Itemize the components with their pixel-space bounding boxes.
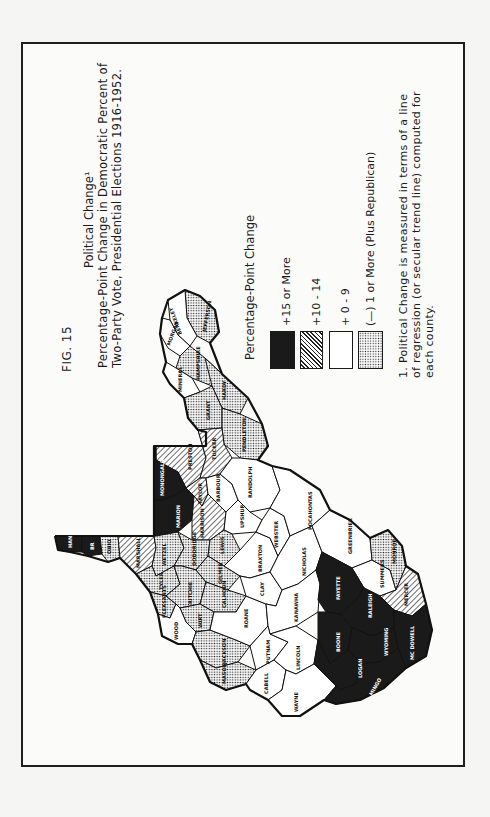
label-summers: SUMMERS — [379, 559, 385, 588]
label-mason: MASON — [221, 663, 227, 684]
label-wirt: WIRT — [197, 613, 203, 628]
label-kanawha: KANAWHA — [293, 593, 299, 622]
label-marion: MARION — [175, 505, 181, 528]
label-fayette: FAYETTE — [335, 576, 341, 600]
label-wetzel: WETZEL — [161, 543, 167, 566]
label-cabell: CABELL — [263, 672, 269, 694]
label-roane: ROANE — [243, 608, 249, 628]
label-monroe: MONROE — [391, 538, 397, 564]
legend-heading: Percentage-Point Change — [243, 215, 257, 360]
figure-subtitle-line-1: Percentage-Point Change in Democratic Pe… — [96, 63, 110, 368]
label-lincoln: LINCOLN — [295, 645, 301, 670]
label-pleasants: PLEASANTS — [161, 585, 167, 618]
label-webster: WEBSTER — [273, 521, 279, 548]
label-jackson: JACKSON — [221, 639, 227, 665]
label-doddridge: DODDRIDGE — [191, 531, 197, 566]
label-putnam: PUTNAM — [265, 640, 271, 664]
label-randolph: RANDOLPH — [247, 467, 253, 498]
label-hardy: HARDY — [221, 380, 227, 400]
figure-subtitle-line-2: Two-Party Vote, Presidential Elections 1… — [110, 69, 124, 368]
footnote-line-1: 1. Political Change is measured in terms… — [397, 94, 410, 378]
legend-label-0-9: + 0 - 9 — [339, 288, 352, 326]
label-ohio: OHIO — [106, 539, 112, 554]
page: HAN BR OHIO MARSHALL WETZEL TYLER PLEASA… — [0, 0, 490, 817]
legend-swatch-solid-black — [270, 331, 295, 369]
label-boone: BOONE — [335, 632, 341, 652]
footnote-line-3: each county. — [423, 305, 436, 378]
label-hampshire: HAMPSHIRE — [195, 346, 201, 380]
label-nicholas: NICHOLAS — [301, 547, 307, 576]
label-braxton: BRAXTON — [257, 545, 263, 572]
footnote-line-2: of regression (or secular trend line) co… — [410, 91, 423, 378]
label-marshall: MARSHALL — [135, 536, 141, 568]
label-grant: GRANT — [205, 400, 211, 420]
legend-swatch-hatch — [300, 331, 323, 369]
legend-swatch-blank — [329, 331, 353, 369]
label-gilmer: GILMER — [217, 562, 223, 584]
label-mcdowell: MC DOWELL — [409, 625, 415, 660]
legend-swatch-dotted — [358, 331, 383, 369]
figure-title: Political Change¹ — [82, 171, 96, 268]
label-preston: PRESTON — [187, 444, 193, 470]
label-hancock: HAN — [67, 536, 73, 548]
label-pendleton: PENDLETON — [241, 418, 247, 452]
label-wyoming: WYOMING — [383, 628, 389, 656]
label-pocahontas: POCAHONTAS — [307, 491, 313, 530]
label-clay: CLAY — [259, 582, 265, 596]
figure-number: FIG. 15 — [60, 326, 74, 372]
label-barbour: BARBOUR — [215, 474, 221, 502]
legend-label-10-14: +10 - 14 — [310, 278, 323, 326]
label-wayne: WAYNE — [293, 692, 299, 712]
label-logan: LOGAN — [357, 659, 363, 678]
label-taylor: TAYLOR — [197, 483, 203, 504]
label-mineral: MINERAL — [177, 366, 183, 392]
label-upshur: UPSHUR — [239, 504, 245, 528]
label-mercer: MERCER — [403, 583, 409, 606]
label-lewis: LEWIS — [219, 536, 225, 554]
label-brooke: BR — [89, 542, 95, 550]
label-harrison: HARRISON — [199, 508, 205, 538]
legend-label-15-or-more: +15 or More — [280, 257, 293, 326]
label-ritchie: RITCHIE — [187, 581, 193, 604]
label-monongalia: MONONGALIA — [159, 457, 165, 496]
label-wood: WOOD — [173, 622, 179, 640]
label-tucker: TUCKER — [211, 438, 217, 460]
label-raleigh: RALEIGH — [367, 594, 373, 618]
legend-label-minus-1-or-more: (—) 1 or More (Plus Republican) — [364, 152, 377, 326]
label-greenbrier: GREENBRIER — [347, 518, 353, 554]
